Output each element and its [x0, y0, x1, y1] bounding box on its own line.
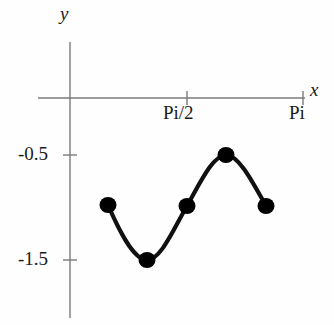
y-axis-label: y — [60, 4, 68, 23]
data-point-marker — [179, 198, 196, 214]
y-tick-label-neg-one-five: -1.5 — [18, 249, 48, 268]
data-point-marker — [100, 197, 117, 213]
x-tick-label-pi: Pi — [289, 103, 305, 122]
x-tick-label-pi-half: Pi/2 — [163, 103, 194, 122]
y-tick-label-neg-half: -0.5 — [18, 144, 48, 163]
plot-figure: y x Pi/2 Pi -0.5 -1.5 — [0, 0, 334, 325]
data-point-marker — [218, 147, 235, 163]
data-point-marker — [258, 198, 275, 214]
plot-canvas — [0, 0, 334, 325]
data-point-marker — [139, 252, 156, 268]
x-axis-label: x — [310, 80, 318, 99]
